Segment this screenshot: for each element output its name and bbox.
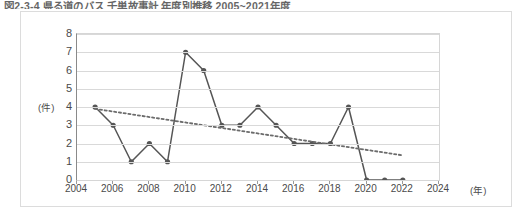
gridline-y-7 (77, 52, 439, 53)
gridline-y-5 (77, 89, 439, 90)
x-axis-tick-labels: 2004200620082010201220142016201820202022… (76, 183, 440, 199)
data-point-2022 (400, 177, 405, 180)
y-axis-unit-label: (件) (38, 100, 54, 114)
chart-plot-wrapper: (件) 012345678 20042006200820102012201420… (0, 0, 514, 211)
x-tick-label-2004: 2004 (65, 183, 87, 194)
y-tick-label-8: 8 (58, 27, 72, 39)
plot-area (76, 33, 440, 181)
x-tick-label-2020: 2020 (354, 183, 376, 194)
y-tick-label-5: 5 (58, 82, 72, 94)
y-tick-label-6: 6 (58, 64, 72, 76)
y-tick-label-7: 7 (58, 45, 72, 57)
y-tick-label-2: 2 (58, 137, 72, 149)
x-tick-label-2018: 2018 (318, 183, 340, 194)
x-tick-label-2012: 2012 (210, 183, 232, 194)
gridline-y-4 (77, 107, 439, 108)
y-axis-tick-labels: 012345678 (56, 33, 72, 181)
x-tick-label-2010: 2010 (173, 183, 195, 194)
gridline-y-2 (77, 144, 439, 145)
x-tick-label-2024: 2024 (427, 183, 449, 194)
gridline-y-6 (77, 71, 439, 72)
x-tick-label-2014: 2014 (246, 183, 268, 194)
data-point-2020 (364, 177, 369, 180)
x-tick-label-2006: 2006 (101, 183, 123, 194)
x-tick-label-2022: 2022 (391, 183, 413, 194)
x-axis-unit-label: (年) (470, 183, 486, 197)
y-tick-label-4: 4 (58, 100, 72, 112)
gridline-y-3 (77, 125, 439, 126)
data-point-2021 (382, 177, 387, 180)
x-tick-label-2016: 2016 (282, 183, 304, 194)
x-tick-label-2008: 2008 (137, 183, 159, 194)
y-tick-label-3: 3 (58, 118, 72, 130)
gridline-y-1 (77, 162, 439, 163)
gridline-y-8 (77, 34, 439, 35)
y-tick-label-1: 1 (58, 155, 72, 167)
